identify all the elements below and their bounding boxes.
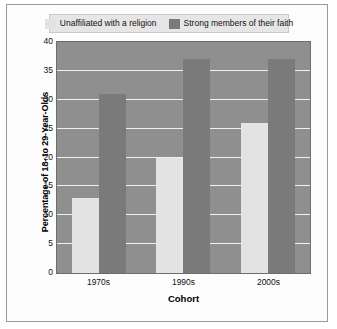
y-axis-tick-label: 40: [44, 36, 53, 46]
x-axis-tick-labels: 1970s1990s2000s: [56, 277, 311, 287]
bar[interactable]: [156, 158, 183, 274]
y-axis-tick-label: 35: [44, 65, 53, 75]
x-axis-tick-label: 2000s: [257, 277, 280, 287]
x-axis-title: Cohort: [56, 293, 311, 304]
legend-label-unaffiliated: Unaffiliated with a religion: [60, 19, 157, 28]
y-axis-tick-label: 15: [44, 180, 53, 190]
legend-swatch-strong-members: [169, 19, 180, 29]
y-axis-tick-label: 0: [48, 267, 53, 277]
bar-group: [156, 42, 210, 273]
bar[interactable]: [241, 123, 268, 273]
bar-groups: [57, 42, 310, 273]
chart-figure: Unaffiliated with a religion Strong memb…: [6, 4, 328, 322]
x-axis-tick-label: 1990s: [172, 277, 195, 287]
legend-label-strong-members: Strong members of their faith: [184, 19, 294, 28]
y-axis-tick-label: 25: [44, 123, 53, 133]
bar[interactable]: [183, 59, 210, 273]
x-axis-tick-label: 1970s: [87, 277, 110, 287]
bar-group: [72, 42, 126, 273]
chart-legend: Unaffiliated with a religion Strong memb…: [49, 14, 289, 33]
legend-entry-strong-members[interactable]: Strong members of their faith: [169, 19, 294, 29]
plot-area: 0510152025303540: [56, 41, 311, 274]
bar[interactable]: [72, 198, 99, 273]
y-axis-tick-label: 30: [44, 94, 53, 104]
bar[interactable]: [99, 94, 126, 273]
bar-group: [241, 42, 295, 273]
legend-entry-unaffiliated[interactable]: Unaffiliated with a religion: [45, 19, 157, 29]
y-axis-tick-label: 10: [44, 209, 53, 219]
bar[interactable]: [268, 59, 295, 273]
y-axis-tick-label: 20: [44, 152, 53, 162]
y-axis-tick-label: 5: [48, 238, 53, 248]
y-axis-title: Percentage of 18- to 29-Year-Olds: [40, 62, 50, 262]
legend-swatch-unaffiliated: [45, 19, 56, 29]
